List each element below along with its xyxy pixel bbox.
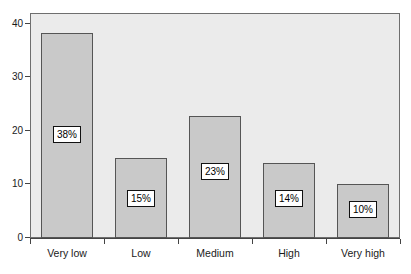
bar-chart: 010203040 Very lowLowMediumHighVery high… bbox=[0, 0, 411, 274]
y-tick-label: 20 bbox=[12, 124, 23, 137]
y-tick-label: 10 bbox=[12, 177, 23, 190]
x-tick-label-low: Low bbox=[131, 246, 150, 260]
x-tick-mark bbox=[326, 239, 327, 244]
y-tick-mark bbox=[25, 183, 30, 184]
x-tick-mark bbox=[400, 239, 401, 244]
bars-layer bbox=[30, 13, 400, 238]
x-tick-label-very-high: Very high bbox=[341, 246, 385, 260]
x-axis-line bbox=[30, 238, 400, 239]
x-tick-mark bbox=[30, 239, 31, 244]
x-tick-mark bbox=[178, 239, 179, 244]
y-tick-mark bbox=[25, 130, 30, 131]
x-tick-mark bbox=[252, 239, 253, 244]
y-axis: 010203040 bbox=[0, 0, 30, 274]
x-tick-mark bbox=[104, 239, 105, 244]
x-tick-label-very-low: Very low bbox=[47, 246, 87, 260]
y-tick-label: 30 bbox=[12, 70, 23, 83]
y-tick-mark bbox=[25, 23, 30, 24]
x-tick-label-high: High bbox=[278, 246, 300, 260]
data-label-low: 15% bbox=[127, 190, 155, 207]
x-tick-label-medium: Medium bbox=[196, 246, 233, 260]
data-label-medium: 23% bbox=[201, 163, 229, 180]
y-tick-label: 0 bbox=[17, 231, 23, 244]
y-tick-mark bbox=[25, 76, 30, 77]
y-tick-label: 40 bbox=[12, 17, 23, 30]
data-label-very-low: 38% bbox=[53, 126, 81, 143]
data-label-very-high: 10% bbox=[349, 201, 377, 218]
data-label-high: 14% bbox=[275, 190, 303, 207]
